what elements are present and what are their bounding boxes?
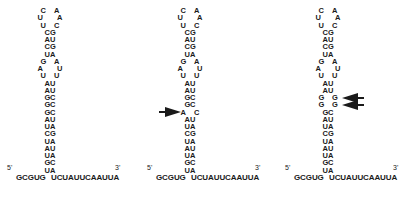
unpaired-row: UU: [0, 72, 140, 79]
unpaired-row: CA: [140, 7, 280, 14]
base-pair-row: CG: [140, 29, 280, 36]
mutation-arrow-icon: [342, 99, 364, 111]
base-pair-row: GC: [0, 101, 140, 108]
base-pair-row: CG: [140, 130, 280, 137]
base-pair-row: UA: [278, 138, 418, 145]
base-pair-row: AU: [140, 87, 280, 94]
stem: CAUAUCCGAUCGUAGAAUUUAUAUGCGCACAUUACGUAAU…: [140, 7, 280, 174]
unpaired-row: GA: [0, 58, 140, 65]
base-pair-row: UA: [278, 51, 418, 58]
base-pair-row: UA: [278, 123, 418, 130]
unpaired-row: GA: [140, 58, 280, 65]
three-prime-label: 3': [115, 164, 120, 171]
three-prime-strand: UCUAUUCAAUUA: [329, 173, 397, 182]
base-pair-row: AU: [278, 116, 418, 123]
five-prime-strand: GCGUG: [156, 173, 186, 182]
base-pair-row: GC: [0, 109, 140, 116]
five-prime-strand: GCGUG: [16, 173, 46, 182]
base-pair-row: UA: [0, 123, 140, 130]
base-pair-row: CG: [0, 43, 140, 50]
base-pair-row: UA: [0, 152, 140, 159]
five-prime-label: 5': [285, 164, 290, 171]
base-pair-row: UA: [278, 152, 418, 159]
base-pair-row: CG: [0, 130, 140, 137]
hairpin-structure-wild-type: CAUAUCCGAUCGUAGAAUUUAUAUGCGCGCAUUACGUAAU…: [0, 0, 140, 207]
base-pair-row: UA: [0, 51, 140, 58]
unpaired-row: GA: [278, 58, 418, 65]
base-pair-row: UA: [140, 51, 280, 58]
base-pair-row: UA: [140, 123, 280, 130]
base-pair-row: AU: [278, 36, 418, 43]
base-pair-row: CG: [140, 43, 280, 50]
unpaired-row: CA: [0, 7, 140, 14]
unpaired-row: UC: [0, 22, 140, 29]
base-pair-row: AU: [0, 36, 140, 43]
unpaired-row: UA: [0, 14, 140, 21]
base-pair-row: AU: [140, 80, 280, 87]
three-prime-label: 3': [393, 164, 398, 171]
unpaired-row: UC: [140, 22, 280, 29]
base-pair-row: AU: [0, 145, 140, 152]
unpaired-row: UU: [140, 72, 280, 79]
stem: CAUAUCCGAUCGUAGAAUUUAUAUGGGGGCAUUACGUAAU…: [278, 7, 418, 174]
unpaired-row: AU: [140, 65, 280, 72]
three-prime-strand: UCUAUUCAAUUA: [191, 173, 259, 182]
base-pair-row: UA: [0, 138, 140, 145]
unpaired-row: AU: [0, 65, 140, 72]
base-pair-row: AU: [278, 145, 418, 152]
five-prime-label: 5': [147, 164, 152, 171]
base-pair-row: CG: [278, 43, 418, 50]
unpaired-row: UA: [278, 14, 418, 21]
unpaired-row: UA: [140, 14, 280, 21]
base-pair-row: GC: [140, 94, 280, 101]
base-pair-row: AU: [0, 87, 140, 94]
base-pair-row: CG: [0, 29, 140, 36]
unpaired-row: UU: [278, 72, 418, 79]
base-pair-row: GC: [0, 94, 140, 101]
stem: CAUAUCCGAUCGUAGAAUUUAUAUGCGCGCAUUACGUAAU…: [0, 7, 140, 174]
mutation-arrow-icon: [159, 106, 181, 118]
base-pair-row: AU: [278, 80, 418, 87]
base-pair-row: AU: [0, 80, 140, 87]
base-pair-row: UA: [140, 138, 280, 145]
base-pair-row: AU: [0, 116, 140, 123]
base-pair-row: AU: [140, 145, 280, 152]
three-prime-label: 3': [255, 164, 260, 171]
base-pair-row: CG: [278, 29, 418, 36]
five-prime-label: 5': [7, 164, 12, 171]
five-prime-strand: GCGUG: [294, 173, 324, 182]
three-prime-strand: UCUAUUCAAUUA: [51, 173, 119, 182]
base-pair-row: AU: [140, 36, 280, 43]
unpaired-row: CA: [278, 7, 418, 14]
hairpin-structure-mutant-1: CAUAUCCGAUCGUAGAAUUUAUAUGCGCACAUUACGUAAU…: [140, 0, 280, 207]
unpaired-row: UC: [278, 22, 418, 29]
hairpin-structure-mutant-2: CAUAUCCGAUCGUAGAAUUUAUAUGGGGGCAUUACGUAAU…: [278, 0, 418, 207]
base-pair-row: CG: [278, 130, 418, 137]
base-pair-row: UA: [140, 152, 280, 159]
unpaired-row: AU: [278, 65, 418, 72]
